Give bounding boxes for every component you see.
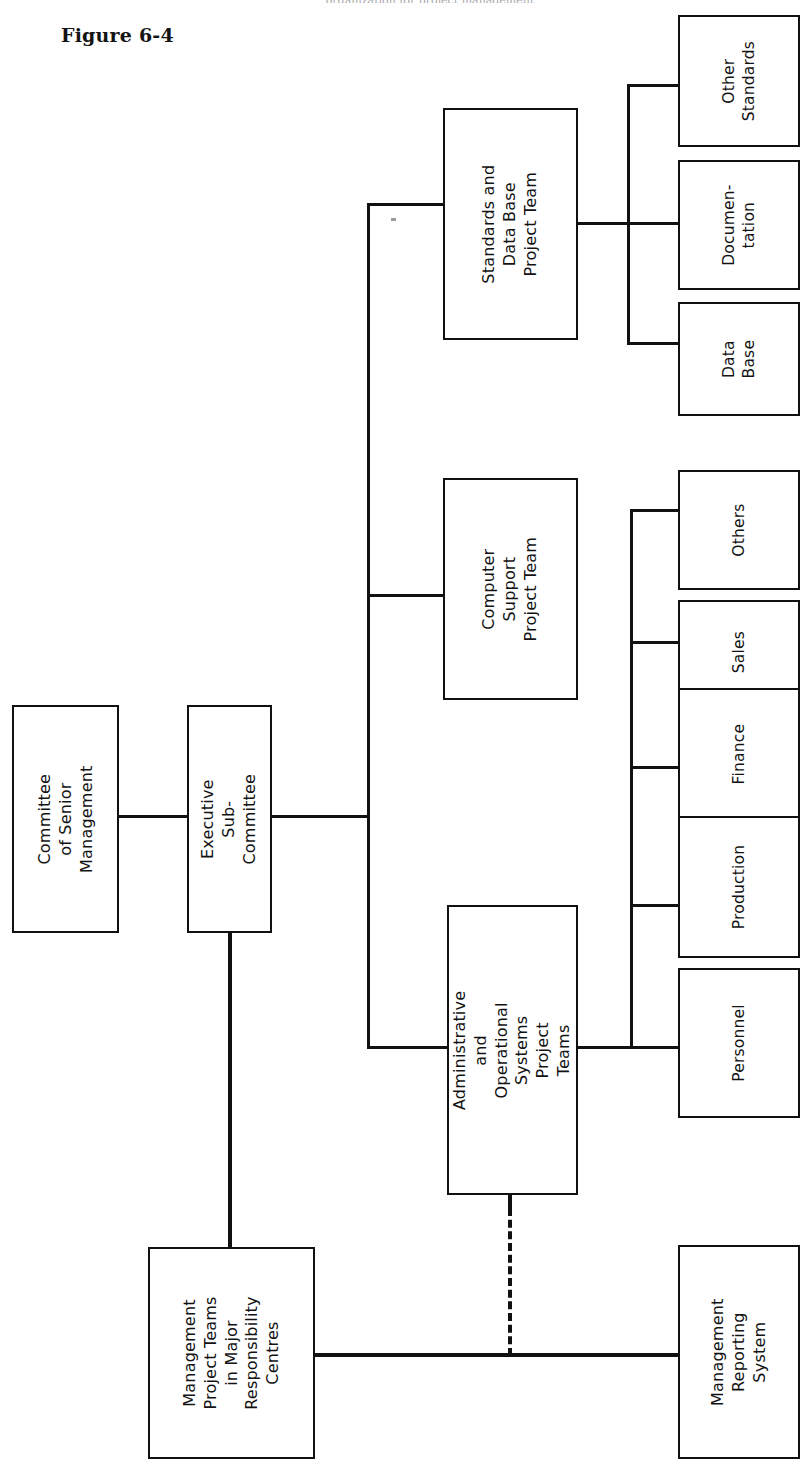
connector-committee-to-executive	[119, 815, 189, 818]
connector-bus-to-other-standards	[627, 84, 680, 87]
node-management-project-teams-in-major-responsibility-centres[interactable]: Management Project Teams in Major Respon…	[148, 1247, 315, 1459]
connector-standards-bus	[627, 84, 630, 345]
node-label: Management Reporting System	[708, 1298, 770, 1405]
node-label: Computer Support Project Team	[479, 523, 541, 654]
node-label: Executive Sub-Committee	[198, 774, 260, 865]
connector-trunk-to-standards-team	[367, 203, 445, 206]
connector-bus-to-sales	[630, 641, 680, 644]
node-finance[interactable]: Finance	[678, 688, 800, 820]
node-label: Other Standards	[719, 41, 759, 121]
node-executive-sub-committee[interactable]: Executive Sub-Committee	[187, 705, 272, 933]
node-label: Production	[729, 845, 749, 929]
cropped-running-header: organization for project management	[300, 0, 560, 3]
node-personnel[interactable]: Personnel	[678, 968, 800, 1118]
node-others[interactable]: Others	[678, 470, 800, 590]
node-label: Administrative and Operational Systems P…	[450, 987, 575, 1114]
node-label: Sales	[729, 631, 749, 673]
connector-main-trunk	[367, 203, 370, 1049]
node-label: Finance	[729, 724, 749, 785]
node-data-base[interactable]: Data Base	[678, 302, 800, 416]
node-label: Standards and Data Base Project Team	[479, 165, 541, 284]
node-other-standards[interactable]: Other Standards	[678, 15, 800, 147]
connector-bus-to-production	[630, 904, 680, 907]
connector-executive-to-management-teams	[228, 931, 232, 1249]
figure-page: organization for project management Figu…	[0, 0, 809, 1459]
connector-management-teams-to-reporting-system	[315, 1353, 680, 1357]
connector-trunk-to-computer-support-team	[367, 594, 445, 597]
node-standards-and-data-base-project-team[interactable]: Standards and Data Base Project Team	[443, 108, 578, 340]
connector-admin-teams-to-bus	[578, 1046, 632, 1049]
node-label: Documen- tation	[719, 184, 759, 265]
node-label: Personnel	[729, 1004, 749, 1082]
connector-executive-to-trunk	[272, 815, 370, 818]
node-computer-support-project-team[interactable]: Computer Support Project Team	[443, 478, 578, 700]
node-committee-of-senior-management[interactable]: Committee of Senior Management	[12, 705, 119, 933]
connector-bus-to-others	[630, 509, 680, 512]
connector-trunk-to-admin-operational-teams	[367, 1046, 449, 1049]
connector-standards-team-to-bus	[578, 222, 630, 225]
node-label: Management Project Teams in Major Respon…	[180, 1296, 284, 1409]
node-documentation[interactable]: Documen- tation	[678, 160, 800, 290]
node-management-reporting-system[interactable]: Management Reporting System	[678, 1245, 800, 1459]
connector-bus-to-data-base	[627, 342, 680, 345]
connector-bus-to-finance	[630, 766, 680, 769]
node-production[interactable]: Production	[678, 816, 800, 958]
node-label: Committee of Senior Management	[34, 765, 96, 872]
node-administrative-and-operational-systems-project-teams[interactable]: Administrative and Operational Systems P…	[447, 905, 578, 1195]
connector-admin-teams-to-reporting-system-dashed	[508, 1208, 512, 1356]
connector-functional-areas-bus	[630, 509, 633, 1049]
connector-bus-to-personnel	[630, 1046, 680, 1049]
node-label: Others	[729, 503, 749, 556]
scan-artifact	[391, 218, 396, 221]
node-label: Data Base	[719, 340, 759, 379]
connector-bus-to-documentation	[627, 222, 680, 225]
figure-title: Figure 6-4	[61, 24, 174, 46]
